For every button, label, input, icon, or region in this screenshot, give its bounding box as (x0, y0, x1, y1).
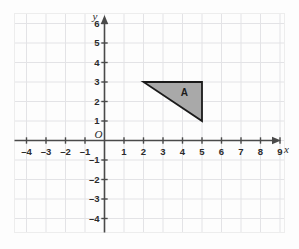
y-tick-label: 1 (94, 116, 99, 126)
x-tick-label: 9 (277, 147, 282, 157)
x-tick-label: 2 (141, 147, 146, 157)
x-tick-label: –3 (41, 147, 52, 157)
x-tick-label: 6 (219, 147, 224, 157)
x-tick-label: 1 (121, 147, 126, 157)
x-axis-label: x (284, 144, 289, 155)
coordinate-plane-svg (0, 0, 299, 249)
figure-background (0, 0, 299, 249)
y-tick-label: –4 (89, 214, 100, 224)
coordinate-grid-figure: –4–3–2–1123456789654321–1–2–3–4OxyA (0, 0, 299, 249)
y-tick-label: –3 (89, 194, 100, 204)
y-tick-label: –2 (89, 175, 100, 185)
y-tick-label: 3 (94, 77, 99, 87)
x-tick-label: 3 (160, 147, 165, 157)
x-tick-label: –2 (60, 147, 71, 157)
x-tick-label: 8 (258, 147, 263, 157)
y-tick-label: 5 (94, 38, 99, 48)
y-tick-label: 2 (94, 97, 99, 107)
y-tick-label: –1 (89, 155, 100, 165)
y-tick-label: 4 (94, 58, 99, 68)
x-tick-label: 4 (180, 147, 185, 157)
shape-label-a: A (181, 88, 188, 98)
origin-label: O (95, 129, 103, 140)
x-tick-label: 5 (199, 147, 204, 157)
x-tick-label: 7 (238, 147, 243, 157)
y-axis-label: y (93, 11, 98, 22)
x-tick-label: –4 (21, 147, 32, 157)
